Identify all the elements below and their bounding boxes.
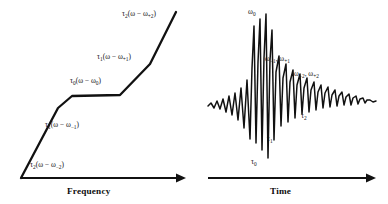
panel-time: ω0 ω−1, ω+1 ω−2, ω+2 τ2 τ1 τ0 Time: [194, 0, 388, 204]
label-tau0: τ0(ω − ω0): [70, 77, 101, 84]
chirped-pulse-curve: [208, 14, 376, 158]
axis-title-time: Time: [270, 186, 291, 196]
label-tau0: τ0: [251, 158, 257, 165]
label-tau2: τ2: [301, 112, 307, 119]
frequency-axis: [21, 174, 186, 183]
label-omega0: ω0: [248, 8, 256, 15]
group-delay-curve: [21, 12, 176, 178]
label-tau2-minus: τ2(ω − ω−2): [30, 161, 64, 168]
chirped-pulse-plot: [194, 0, 388, 204]
label-tau1-minus: τ1(ω − ω−1): [45, 121, 79, 128]
axis-title-frequency: Frequency: [67, 186, 110, 196]
time-axis: [208, 174, 376, 183]
figure-container: τ2(ω − ω+2) τ1(ω − ω+1) τ0(ω − ω0) τ1(ω …: [0, 0, 388, 204]
label-omega-pm1: ω−1, ω+1: [265, 55, 290, 62]
label-tau1-plus: τ1(ω − ω+1): [97, 53, 131, 60]
label-tau2-plus: τ2(ω − ω+2): [122, 10, 156, 17]
label-omega-pm2: ω−2, ω+2: [294, 70, 319, 77]
panel-frequency: τ2(ω − ω+2) τ1(ω − ω+1) τ0(ω − ω0) τ1(ω …: [0, 0, 194, 204]
group-delay-plot: [0, 0, 194, 204]
label-tau1: τ1: [267, 135, 273, 142]
